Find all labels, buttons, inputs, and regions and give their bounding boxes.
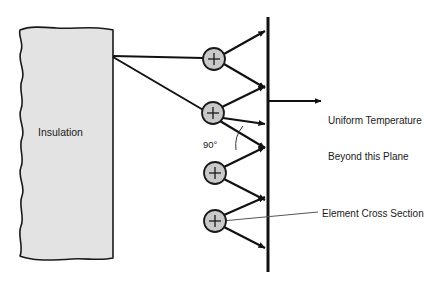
- insulation-block: [20, 27, 113, 260]
- diagram-canvas: Insulation 90° Uniform Temperature Beyon…: [0, 0, 442, 285]
- feed-line-2: [113, 57, 205, 111]
- arrow-node-2-extra: [220, 121, 265, 148]
- feed-line-1: [113, 56, 203, 58]
- element-cross-section-callout: Element Cross Section: [322, 208, 424, 220]
- arrow-node-1-lower: [224, 64, 265, 88]
- node-1: [203, 48, 225, 70]
- arrow-node-4-lower: [224, 227, 265, 248]
- arrow-node-1-upper: [224, 31, 265, 54]
- arrow-node-4-upper: [224, 197, 265, 215]
- arrow-node-2-lower: [223, 118, 265, 124]
- uniform-temperature-line-2: Beyond this Plane: [328, 151, 422, 163]
- insulation-label: Insulation: [38, 126, 83, 138]
- element-cross-section-leader: [222, 212, 318, 221]
- angle-label: 90°: [203, 139, 217, 151]
- node-2: [202, 102, 224, 124]
- node-3: [204, 162, 226, 184]
- arrow-node-2-upper: [222, 86, 265, 107]
- arrow-node-3-lower: [224, 179, 265, 200]
- angle-arc: [236, 126, 243, 150]
- arrow-node-3-upper: [224, 147, 265, 167]
- uniform-temperature-callout: Uniform Temperature Beyond this Plane: [328, 91, 422, 187]
- uniform-temperature-line-1: Uniform Temperature: [328, 115, 422, 127]
- node-4: [204, 210, 226, 232]
